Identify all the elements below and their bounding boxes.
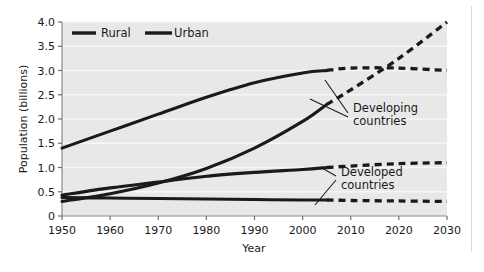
x-axis-title: Year xyxy=(241,242,266,255)
annotation-developed-line2: countries xyxy=(341,178,394,192)
x-tick-label-4: 1990 xyxy=(241,224,269,237)
y-tick-label-2: 1.0 xyxy=(38,162,56,175)
annotation-developed-line1: Developed xyxy=(341,165,403,179)
y-tick-label-6: 3.0 xyxy=(38,65,56,78)
y-tick-label-4: 2.0 xyxy=(38,113,56,126)
x-tick-label-8: 2030 xyxy=(433,224,461,237)
chart-svg: 00.51.01.52.02.53.03.54.0 Population (bi… xyxy=(0,0,484,272)
annotation-developing-line2: countries xyxy=(353,114,406,128)
x-tick-label-1: 1960 xyxy=(96,224,124,237)
y-tick-label-1: 0.5 xyxy=(38,186,56,199)
y-axis-title: Population (billions) xyxy=(17,65,30,174)
x-tick-label-2: 1970 xyxy=(144,224,172,237)
x-tick-label-0: 1950 xyxy=(48,224,76,237)
x-axis-tick-labels: 195019601970198019902000201020202030 xyxy=(48,224,461,237)
y-tick-label-7: 3.5 xyxy=(38,40,56,53)
page-edge-rule xyxy=(471,6,472,252)
annotation-developing-line1: Developing xyxy=(353,101,418,115)
x-tick-label-6: 2010 xyxy=(337,224,365,237)
y-tick-label-8: 4.0 xyxy=(38,16,56,29)
y-tick-label-3: 1.5 xyxy=(38,137,56,150)
x-tick-label-3: 1980 xyxy=(192,224,220,237)
x-tick-label-7: 2020 xyxy=(385,224,413,237)
legend-label-urban: Urban xyxy=(174,26,209,40)
x-tick-label-5: 2000 xyxy=(289,224,317,237)
y-tick-label-0: 0 xyxy=(48,210,55,223)
y-tick-label-5: 2.5 xyxy=(38,89,56,102)
population-projection-chart-figure: 00.51.01.52.02.53.03.54.0 Population (bi… xyxy=(0,0,484,272)
y-axis-tick-labels: 00.51.01.52.02.53.03.54.0 xyxy=(38,16,56,223)
legend-label-rural: Rural xyxy=(101,26,131,40)
